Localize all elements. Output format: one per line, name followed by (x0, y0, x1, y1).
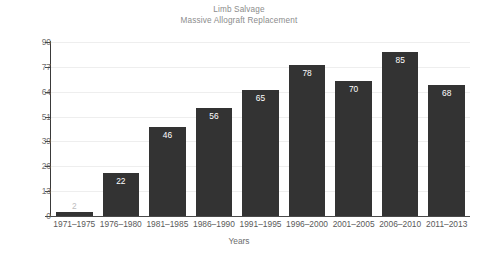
bar[interactable] (382, 52, 419, 216)
x-tick-label: 1971–1975 (51, 219, 98, 229)
chart-subtitle: Massive Allograft Replacement (0, 15, 478, 26)
bar-value-label: 68 (423, 88, 470, 98)
bar-slot[interactable]: 70 (330, 42, 377, 216)
bar-value-label: 56 (191, 111, 238, 121)
x-tick-label: 1976–1980 (98, 219, 145, 229)
x-axis-title: Years (0, 236, 478, 246)
bar-value-label: 78 (284, 68, 331, 78)
y-tick-mark (45, 92, 50, 93)
x-tick-label: 1991–1995 (237, 219, 284, 229)
bar-slot[interactable]: 65 (237, 42, 284, 216)
y-tick-mark (45, 42, 50, 43)
x-axis-ticks: 1971–19751976–19801981–19851986–19901991… (51, 219, 470, 233)
bar[interactable] (149, 127, 186, 216)
bar[interactable] (289, 65, 326, 216)
bar-slot[interactable]: 78 (284, 42, 331, 216)
bar[interactable] (56, 212, 93, 216)
bar[interactable] (242, 90, 279, 216)
y-tick-mark (45, 141, 50, 142)
chart-title: Limb Salvage (0, 4, 478, 15)
x-tick-label: 2006–2010 (377, 219, 424, 229)
y-tick-mark (45, 117, 50, 118)
x-tick-label: 1981–1985 (144, 219, 191, 229)
bar-slot[interactable]: 2 (51, 42, 98, 216)
bar-value-label: 85 (377, 55, 424, 65)
x-tick-label: 2011–2013 (423, 219, 470, 229)
bar[interactable] (335, 81, 372, 216)
y-tick-mark (45, 166, 50, 167)
bars-layer: 22246566578708568 (51, 42, 470, 216)
bar-value-label: 65 (237, 93, 284, 103)
y-tick-mark (45, 191, 50, 192)
x-tick-label: 1996–2000 (284, 219, 331, 229)
y-tick-mark (45, 67, 50, 68)
bar-value-label: 46 (144, 130, 191, 140)
y-axis-ticks: 013263951647790 (0, 0, 51, 257)
bar-slot[interactable]: 22 (98, 42, 145, 216)
bar[interactable] (196, 108, 233, 216)
bar-value-label: 2 (51, 201, 98, 211)
bar-slot[interactable]: 46 (144, 42, 191, 216)
bar-value-label: 22 (98, 176, 145, 186)
bar-slot[interactable]: 85 (377, 42, 424, 216)
bar-chart-figure: Limb Salvage Massive Allograft Replaceme… (0, 0, 478, 257)
y-tick-mark (45, 216, 50, 217)
bar[interactable] (428, 85, 465, 216)
x-tick-label: 2001–2005 (330, 219, 377, 229)
bar-slot[interactable]: 56 (191, 42, 238, 216)
x-tick-label: 1986–1990 (191, 219, 238, 229)
x-axis-line (51, 216, 470, 217)
bar-value-label: 70 (330, 84, 377, 94)
bar-slot[interactable]: 68 (423, 42, 470, 216)
chart-title-block: Limb Salvage Massive Allograft Replaceme… (0, 4, 478, 26)
